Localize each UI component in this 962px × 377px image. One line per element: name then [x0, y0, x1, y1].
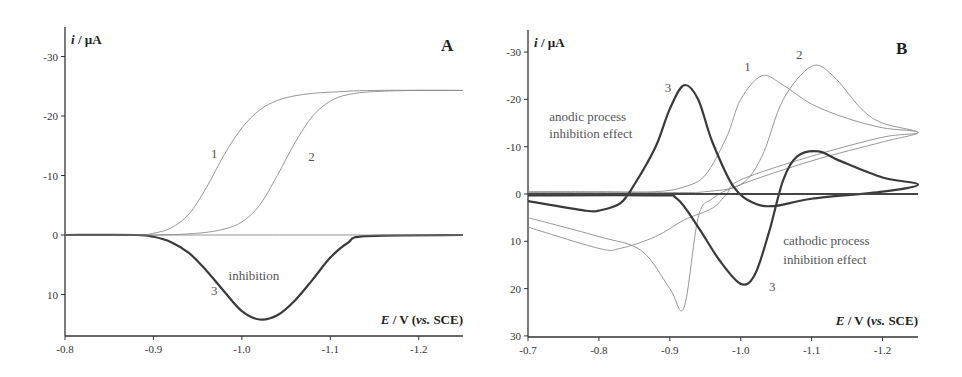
- x-tick-label: -1.1: [322, 343, 339, 355]
- x-tick-label: -0.8: [56, 343, 74, 355]
- x-tick-label: -1.0: [233, 343, 251, 355]
- annotation: 3: [211, 283, 218, 298]
- y-tick-label: 30: [510, 330, 522, 342]
- annotation: anodic process: [549, 109, 626, 124]
- y-tick-label: -10: [506, 141, 521, 153]
- x-tick-label: -0.9: [145, 343, 163, 355]
- curve-1: [65, 90, 463, 235]
- annotation: 1: [211, 146, 218, 161]
- y-tick-label: -20: [506, 93, 521, 105]
- y-tick-label: -30: [43, 51, 58, 63]
- x-tick-label: -1.1: [803, 344, 820, 356]
- panel-label: A: [441, 36, 454, 55]
- y-tick-label: 10: [47, 289, 59, 301]
- y-axis-title: i / µA: [534, 35, 565, 50]
- y-tick-label: -30: [506, 46, 521, 58]
- x-tick-label: -1.2: [874, 344, 891, 356]
- curve-2: [65, 90, 463, 235]
- x-tick-label: -1.0: [732, 344, 750, 356]
- x-tick-label: -0.8: [590, 344, 608, 356]
- curve-2: [528, 65, 918, 250]
- y-tick-label: 10: [510, 235, 522, 247]
- annotation: 3: [769, 279, 776, 294]
- figure: -0.8-0.9-1.0-1.1-1.2-30-20-10010123inhib…: [0, 0, 962, 377]
- annotation: inhibition effect: [549, 126, 633, 141]
- annotation: cathodic process: [783, 233, 869, 248]
- annotation: 1: [744, 59, 751, 74]
- panel-label: B: [896, 39, 907, 58]
- y-tick-label: 0: [516, 188, 522, 200]
- annotation: 2: [796, 47, 803, 62]
- y-tick-label: -20: [43, 110, 58, 122]
- y-tick-label: -10: [43, 170, 58, 182]
- x-tick-label: -1.2: [410, 343, 427, 355]
- annotation: inhibition effect: [783, 252, 867, 267]
- panel-b-chart: -0.7-0.8-0.9-1.0-1.1-1.2-30-20-100102030…: [506, 30, 918, 356]
- annotation: 3: [665, 80, 672, 95]
- x-axis-title: E / V (vs. SCE): [380, 312, 463, 327]
- y-tick-label: 20: [510, 283, 522, 295]
- x-tick-label: -0.7: [519, 344, 537, 356]
- y-tick-label: 0: [53, 229, 59, 241]
- x-axis-title: E / V (vs. SCE): [835, 313, 918, 328]
- panel-a-chart: -0.8-0.9-1.0-1.1-1.2-30-20-10010123inhib…: [43, 27, 463, 355]
- x-tick-label: -0.9: [661, 344, 679, 356]
- annotation: inhibition: [229, 268, 280, 283]
- y-axis-title: i / µA: [71, 32, 102, 47]
- annotation: 2: [308, 149, 315, 164]
